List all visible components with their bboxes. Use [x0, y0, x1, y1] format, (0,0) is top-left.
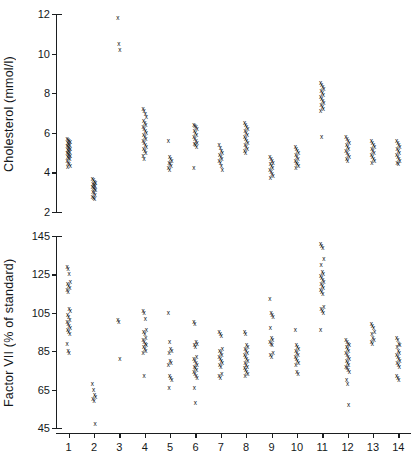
data-point: x: [143, 373, 146, 379]
x-axis-tick: [94, 433, 95, 438]
data-group-6: xxxxxxxxxxxxxxx: [188, 14, 202, 212]
cholesterol-axis-cap: [56, 14, 62, 15]
x-axis-tick: [297, 433, 298, 438]
factor-vii-tick-label: 145: [32, 231, 50, 242]
data-point: x: [347, 402, 350, 408]
x-axis-tick-label: 7: [218, 442, 224, 453]
cholesterol-tick-label: 8: [44, 88, 50, 99]
data-point: x: [68, 331, 71, 337]
data-point: x: [93, 196, 96, 202]
x-axis-tick: [145, 433, 146, 438]
data-group-11: xxxxxxxxxxxxxxxxxxxxxx: [315, 236, 329, 428]
factor-vii-tick: [52, 390, 57, 391]
x-axis-cap: [69, 433, 70, 438]
cholesterol-tick: [52, 133, 57, 134]
data-point: x: [296, 371, 299, 377]
data-point: x: [117, 319, 120, 325]
data-point: x: [68, 350, 71, 356]
figure-canvas: Cholesterol (mmol/l) xxxxxxxxxxxxxxxxxxx…: [0, 0, 417, 460]
data-point: x: [294, 165, 297, 171]
data-group-3: xxx: [112, 14, 126, 212]
data-point: x: [268, 296, 271, 302]
data-point: x: [346, 157, 349, 163]
cholesterol-axis-cap: [56, 212, 62, 213]
data-group-9: xxxxxxxxxxxxx: [265, 236, 279, 428]
data-point: x: [319, 108, 322, 114]
data-group-2: xxxxxxx: [87, 236, 101, 428]
data-point: x: [321, 290, 324, 296]
data-group-10: xxxxxxxxxxxxxx: [290, 236, 304, 428]
data-point: x: [272, 313, 275, 319]
data-point: x: [192, 165, 195, 171]
data-group-4: xxxxxxxxxxxxxxxx: [138, 236, 152, 428]
data-point: x: [397, 377, 400, 383]
data-point: x: [167, 350, 170, 356]
data-point: x: [144, 348, 147, 354]
data-point: x: [167, 138, 170, 144]
data-point: x: [118, 356, 121, 362]
data-point: x: [269, 175, 272, 181]
data-group-10: xxxxxxxxxxxx: [290, 14, 304, 212]
x-axis-tick-label: 5: [167, 442, 173, 453]
data-point: x: [270, 354, 273, 360]
data-point: x: [272, 173, 275, 179]
x-axis-tick: [221, 433, 222, 438]
factor-vii-tick-label: 45: [38, 423, 50, 434]
data-point: x: [143, 155, 146, 161]
data-point: x: [116, 15, 119, 21]
data-group-13: xxxxxxxxx: [366, 236, 380, 428]
data-point: x: [322, 256, 325, 262]
data-group-1: xxxxxxxxxxxxxxxxxxxxxxxx: [62, 236, 76, 428]
cholesterol-plot-area: xxxxxxxxxxxxxxxxxxxxxxxxxxxxxxxxxxxxxxxx…: [56, 14, 411, 212]
x-axis-tick-label: 12: [341, 442, 353, 453]
data-point: x: [320, 262, 323, 268]
data-group-8: xxxxxxxxxxxxxxxxxxx: [239, 236, 253, 428]
data-point: x: [371, 340, 374, 346]
shared-x-axis: 1234567891011121314: [56, 433, 411, 459]
data-point: x: [319, 327, 322, 333]
data-point: x: [118, 46, 121, 52]
x-axis-tick-label: 6: [192, 442, 198, 453]
factor-vii-tick-label: 85: [38, 346, 50, 357]
data-point: x: [322, 310, 325, 316]
factor-vii-tick: [52, 351, 57, 352]
x-axis-tick-label: 1: [66, 442, 72, 453]
factor-vii-plot-area: xxxxxxxxxxxxxxxxxxxxxxxxxxxxxxxxxxxxxxxx…: [56, 236, 411, 428]
data-point: x: [269, 325, 272, 331]
data-group-4: xxxxxxxxxxxxxxxxxxxxxxx: [138, 14, 152, 212]
data-point: x: [244, 149, 247, 155]
data-point: x: [397, 161, 400, 167]
x-axis-tick: [272, 433, 273, 438]
data-point: x: [168, 338, 171, 344]
data-point: x: [297, 163, 300, 169]
x-axis-tick: [195, 433, 196, 438]
x-axis-cap: [398, 433, 399, 438]
x-axis-tick-label: 2: [91, 442, 97, 453]
data-point: x: [398, 363, 401, 369]
data-group-13: xxxxxxxxxxxx: [366, 14, 380, 212]
data-point: x: [348, 369, 351, 375]
data-group-12: xxxxxxxxxxxxx: [341, 14, 355, 212]
data-point: x: [66, 164, 69, 170]
data-point: x: [322, 106, 325, 112]
data-group-8: xxxxxxxxxxxxxxxx: [239, 14, 253, 212]
data-point: x: [320, 134, 323, 140]
data-point: x: [194, 344, 197, 350]
data-group-2: xxxxxxxxxxxxxxxxx: [87, 14, 101, 212]
data-point: x: [167, 361, 170, 367]
factor-vii-tick: [52, 313, 57, 314]
cholesterol-tick: [52, 54, 57, 55]
data-point: x: [94, 421, 97, 427]
cholesterol-tick: [52, 93, 57, 94]
data-point: x: [194, 400, 197, 406]
x-axis-tick-label: 14: [392, 442, 404, 453]
factor-vii-tick-label: 65: [38, 384, 50, 395]
data-group-5: xxxxxxxxx: [163, 14, 177, 212]
data-point: x: [167, 310, 170, 316]
data-group-6: xxxxxxxxxxxxxxxxxxxx: [188, 236, 202, 428]
cholesterol-tick-label: 12: [38, 9, 50, 20]
data-point: x: [321, 244, 324, 250]
data-point: x: [195, 375, 198, 381]
x-axis-tick: [119, 433, 120, 438]
data-group-7: xxxxxxxxxxx: [214, 14, 228, 212]
